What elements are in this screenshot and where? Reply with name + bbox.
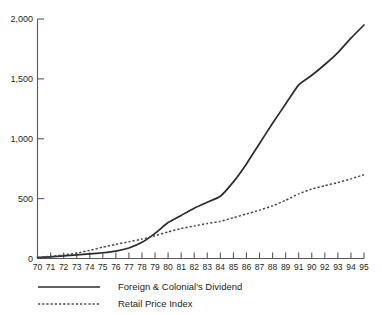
x-axis-tick-label: 87 (255, 262, 265, 272)
x-axis-tick-label: 88 (268, 262, 278, 272)
y-axis-tick-label: 1,000 (10, 134, 33, 144)
chart-legend: Foreign & Colonial's DividendRetail Pric… (38, 281, 242, 309)
x-axis-tick-label: 89 (281, 262, 291, 272)
x-axis-tick-label: 86 (242, 262, 252, 272)
x-axis-tick-label: 76 (111, 262, 121, 272)
x-axis-tick-label: 73 (72, 262, 82, 272)
y-axis-tick-label: 1,500 (10, 74, 33, 84)
line-chart: 05001,0001,5002,000 70717273747576777879… (0, 0, 382, 315)
x-axis-tick-label: 72 (59, 262, 69, 272)
x-axis-tick-label: 91 (294, 262, 304, 272)
x-axis-tick-label: 94 (346, 262, 356, 272)
series-line-rpi (38, 175, 365, 258)
y-axis-tick-labels: 05001,0001,5002,000 (10, 14, 33, 264)
x-axis-tick-label: 90 (307, 262, 317, 272)
x-axis-tick-label: 92 (320, 262, 330, 272)
x-axis-tick-label: 81 (176, 262, 186, 272)
x-axis-tick-label: 85 (229, 262, 239, 272)
x-axis-tick-labels: 7071727374757677787980818283848586878889… (33, 262, 369, 272)
x-axis-tick-label: 74 (85, 262, 95, 272)
x-axis-tick-label: 70 (33, 262, 43, 272)
x-axis-tick-label: 80 (163, 262, 173, 272)
x-axis-tick-label: 82 (189, 262, 199, 272)
x-axis-tick-label: 75 (98, 262, 108, 272)
legend-label: Retail Price Index (118, 298, 193, 309)
x-axis-tick-label: 83 (203, 262, 213, 272)
y-axis-tick-marks (38, 19, 45, 199)
x-axis-tick-label: 79 (150, 262, 160, 272)
y-axis-tick-label: 2,000 (10, 14, 33, 24)
x-axis-tick-label: 77 (124, 262, 134, 272)
x-axis-tick-label: 71 (46, 262, 56, 272)
x-axis-tick-label: 93 (333, 262, 343, 272)
x-axis-tick-label: 95 (359, 262, 369, 272)
y-axis-tick-label: 500 (18, 194, 33, 204)
chart-container: 05001,0001,5002,000 70717273747576777879… (0, 0, 382, 315)
legend-label: Foreign & Colonial's Dividend (118, 281, 242, 292)
x-axis-tick-label: 78 (137, 262, 147, 272)
x-axis-tick-label: 84 (216, 262, 226, 272)
series-line-dividend (38, 25, 365, 258)
